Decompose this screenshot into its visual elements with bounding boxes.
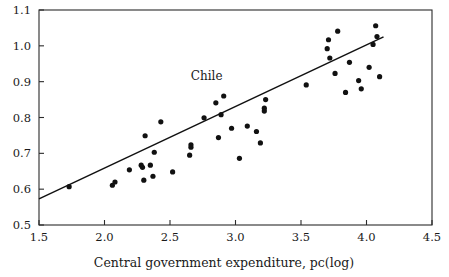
x-axis-tick-labels: 1.52.02.53.03.54.04.5 [30,230,441,244]
y-tick-label: 0.8 [13,111,31,125]
x-tick-label: 3.0 [226,230,244,244]
data-point [374,34,379,39]
data-point [367,65,372,70]
data-point [221,93,226,98]
x-tick-label: 3.5 [292,230,310,244]
x-axis-ticks [39,220,432,225]
x-tick-label: 2.5 [161,230,179,244]
data-point [356,78,361,83]
y-tick-label: 0.9 [13,75,31,89]
y-tick-label: 0.5 [13,218,31,232]
chart-annotations: Chile [191,69,223,83]
y-tick-label: 1.1 [13,3,31,17]
data-point [170,169,175,174]
scatter-chart: 1.52.02.53.03.54.04.5 0.50.60.70.80.91.0… [0,0,449,277]
data-point [201,115,206,120]
data-point [67,184,72,189]
data-point [332,71,337,76]
data-point [148,163,153,168]
regression-line-path [39,37,384,199]
y-tick-label: 0.6 [13,182,31,196]
data-point [254,129,259,134]
data-point [326,37,331,42]
data-point [359,86,364,91]
data-point [347,60,352,65]
y-axis-tick-labels: 0.50.60.70.80.91.01.1 [13,3,31,232]
data-point [213,100,218,105]
x-tick-label: 1.5 [30,230,48,244]
data-point [335,29,340,34]
data-point [187,153,192,158]
data-point [143,133,148,138]
annotation-chile: Chile [191,69,223,83]
x-axis-title: Central government expenditure, pc(log) [94,255,354,270]
data-point [237,156,242,161]
data-point [327,55,332,60]
data-point [152,150,157,155]
chart-canvas: 1.52.02.53.03.54.04.5 0.50.60.70.80.91.0… [0,0,449,277]
data-point [127,167,132,172]
data-point [141,178,146,183]
y-axis-ticks [39,10,44,225]
x-tick-label: 4.5 [423,230,441,244]
data-point [150,174,155,179]
data-point [158,119,163,124]
data-point [216,135,221,140]
x-tick-label: 2.0 [95,230,113,244]
data-point [140,165,145,170]
data-point [373,23,378,28]
data-point [377,74,382,79]
y-tick-label: 0.7 [13,146,31,160]
data-point [258,140,263,145]
data-point [263,97,268,102]
data-point [112,179,117,184]
data-point [370,42,375,47]
data-point [245,124,250,129]
data-point [188,142,193,147]
regression-line [39,37,384,199]
data-point [218,112,223,117]
data-point [343,90,348,95]
y-tick-label: 1.0 [13,39,31,53]
data-point [262,106,267,111]
data-point [325,46,330,51]
data-point [229,126,234,131]
x-tick-label: 4.0 [357,230,375,244]
data-point [304,82,309,87]
